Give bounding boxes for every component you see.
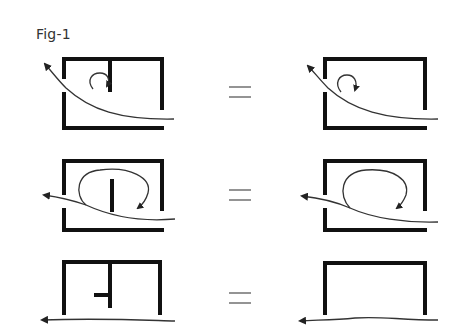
flow-equivalence-diagram <box>0 0 468 327</box>
internal-wall-vertical <box>108 262 112 308</box>
row2-equals-sign <box>229 190 251 200</box>
internal-wall-stub <box>94 293 112 297</box>
row3-left-room <box>42 260 175 321</box>
through-flow-arrow <box>302 196 438 222</box>
row1-right-room <box>308 57 438 130</box>
through-flow-arrow <box>300 317 438 321</box>
loop-arrow <box>343 170 407 208</box>
row2-right-room <box>302 159 438 232</box>
row3-right-room <box>300 261 438 321</box>
row3-equals-sign <box>229 293 251 303</box>
internal-wall <box>108 57 112 92</box>
row1-left-room <box>45 57 174 130</box>
internal-wall <box>110 179 114 212</box>
row1-equals-sign <box>229 87 251 97</box>
row2-left-room <box>44 159 175 232</box>
through-flow-arrow <box>308 66 438 119</box>
vortex-arrow <box>90 73 109 89</box>
vortex-arrow <box>338 75 356 92</box>
through-flow-arrow <box>42 319 175 321</box>
